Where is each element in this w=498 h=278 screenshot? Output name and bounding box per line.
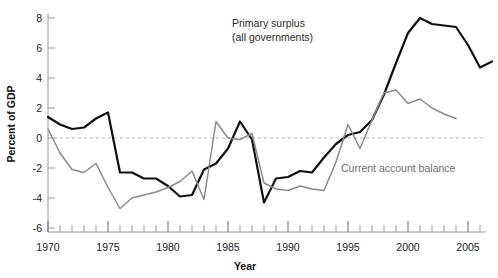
y-tick-label: 2 xyxy=(36,102,42,114)
x-tick-label: 1995 xyxy=(336,241,360,253)
x-tick-label: 1975 xyxy=(96,241,120,253)
y-tick-label: -6 xyxy=(33,222,42,234)
y-axis-title: Percent of GDP xyxy=(5,85,17,162)
y-tick-label: 0 xyxy=(36,132,42,144)
y-tick-label: -2 xyxy=(33,162,42,174)
x-tick-label: 1985 xyxy=(216,241,240,253)
x-axis-title: Year xyxy=(234,260,256,272)
annotation-current-account-balance: Current account balance xyxy=(341,162,456,174)
annotation-primary-surplus-line2: (all governments) xyxy=(232,31,313,43)
y-tick-label: -4 xyxy=(33,192,42,204)
x-tick-label: 1980 xyxy=(156,241,180,253)
y-tick-label: 8 xyxy=(36,12,42,24)
x-tick-label: 1990 xyxy=(276,241,300,253)
x-tick-label: 2005 xyxy=(456,241,480,253)
x-tick-label: 1970 xyxy=(36,241,60,253)
x-tick-label: 2000 xyxy=(396,241,420,253)
y-tick-label: 6 xyxy=(36,42,42,54)
annotation-primary-surplus-line1: Primary surplus xyxy=(232,17,305,29)
chart-figure: -6-4-202468 1970197519801985199019952000… xyxy=(0,0,498,278)
y-tick-label: 4 xyxy=(36,72,42,84)
chart-canvas: -6-4-202468 1970197519801985199019952000… xyxy=(0,0,498,278)
